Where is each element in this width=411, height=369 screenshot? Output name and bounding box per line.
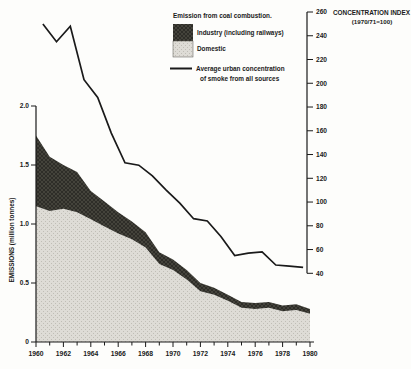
chart-figure: 2.01.51.00.50196019621964196619681970197… xyxy=(0,0,411,369)
legend-domestic-label: Domestic xyxy=(197,45,226,52)
x-axis-tick-label: 1966 xyxy=(111,350,126,357)
x-axis-tick-label: 1968 xyxy=(138,350,153,357)
x-axis-tick-label: 1972 xyxy=(193,350,208,357)
right-axis-tick-label: 40 xyxy=(316,270,324,277)
legend-line-label-2: of smoke from all sources xyxy=(200,75,280,82)
x-axis-tick-label: 1974 xyxy=(220,350,235,357)
right-axis-tick-label: 260 xyxy=(316,8,327,15)
x-axis-tick-label: 1978 xyxy=(275,350,290,357)
right-axis-tick-label: 200 xyxy=(316,80,327,87)
x-axis: 1960196219641966196819701972197419761978… xyxy=(28,342,317,357)
chart-canvas: 2.01.51.00.50196019621964196619681970197… xyxy=(0,0,411,369)
legend-title: Emission from coal combustion. xyxy=(173,12,272,19)
right-axis-tick-label: 60 xyxy=(316,246,324,253)
left-axis-tick-label: 0.5 xyxy=(20,279,29,286)
x-axis-tick-label: 1980 xyxy=(302,350,317,357)
legend-swatch-domestic-icon xyxy=(173,41,193,57)
legend-line-label-1: Average urban concentration xyxy=(196,65,285,73)
right-axis-title: CONCENTRATION INDEX xyxy=(333,9,411,16)
x-axis-tick-label: 1960 xyxy=(28,350,43,357)
left-axis: 2.01.51.00.50 xyxy=(20,102,36,345)
x-axis-tick-label: 1962 xyxy=(56,350,71,357)
left-axis-tick-label: 0 xyxy=(25,338,29,345)
left-axis-title: EMISSIONS (million tonnes) xyxy=(8,198,16,283)
left-axis-tick-label: 1.0 xyxy=(20,220,29,227)
right-axis-tick-label: 160 xyxy=(316,127,327,134)
legend-swatch-industry-icon xyxy=(173,24,193,41)
area-domestic xyxy=(36,206,310,342)
x-axis-tick-label: 1964 xyxy=(83,350,98,357)
right-axis: 260240220200180160140120100806040 xyxy=(307,8,327,276)
left-axis-tick-label: 1.5 xyxy=(20,161,29,168)
legend-industry-label: Industry (including railways) xyxy=(197,29,284,37)
right-axis-tick-label: 240 xyxy=(316,32,327,39)
right-axis-tick-label: 180 xyxy=(316,103,327,110)
right-axis-tick-label: 220 xyxy=(316,56,327,63)
right-axis-tick-label: 120 xyxy=(316,175,327,182)
x-axis-tick-label: 1970 xyxy=(165,350,180,357)
legend: Emission from coal combustion. Industry … xyxy=(170,12,285,82)
right-axis-tick-label: 80 xyxy=(316,222,324,229)
x-axis-tick-label: 1976 xyxy=(248,350,263,357)
left-axis-tick-label: 2.0 xyxy=(20,102,29,109)
chart-generated: 2.01.51.00.50196019621964196619681970197… xyxy=(20,8,328,356)
right-axis-subtitle: (1970/71=100) xyxy=(352,18,392,25)
right-axis-tick-label: 100 xyxy=(316,198,327,205)
right-axis-tick-label: 140 xyxy=(316,151,327,158)
